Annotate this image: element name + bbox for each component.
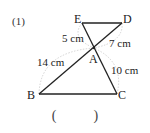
label-point-e: E [74,12,81,26]
answer-blank[interactable]: ( ) [0,108,150,124]
point-a-dot [93,47,95,49]
answer-open-paren: ( [52,108,57,124]
answer-close-paren: ) [94,108,99,124]
length-ca: 10 cm [111,64,139,76]
label-point-b: B [27,88,35,102]
length-ea: 5 cm [62,32,84,44]
length-ba: 14 cm [37,56,65,68]
label-point-a: A [89,52,98,66]
label-point-c: C [118,88,126,102]
length-da: 7 cm [109,37,131,49]
segment-ec [82,23,117,94]
label-point-d: D [123,12,132,26]
